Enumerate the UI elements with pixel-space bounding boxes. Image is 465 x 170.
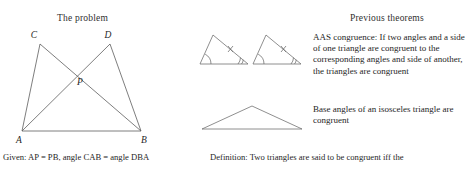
angle-arc-left-b1 — [238, 58, 241, 64]
congruent-triangles-svg — [196, 28, 308, 72]
triangle-left — [200, 35, 248, 64]
vertex-label-b: B — [141, 135, 147, 145]
problem-diagram-svg: C D P A B — [0, 22, 175, 137]
definition-caption: Definition: Two triangles are said to be… — [210, 152, 404, 162]
right-panel-heading: Previous theorems — [350, 13, 424, 23]
isosceles-left-leg — [202, 106, 252, 129]
angle-arc-right-a — [258, 54, 264, 64]
congruent-triangles-figure — [196, 28, 308, 72]
vertex-label-a: A — [15, 135, 22, 145]
vertex-label-c: C — [31, 30, 38, 40]
vertex-label-d: D — [104, 30, 112, 40]
angle-arc-left-a — [205, 54, 211, 64]
isosceles-triangle-figure — [196, 100, 308, 136]
isosceles-right-leg — [252, 106, 302, 129]
given-caption: Given: AP = PB, angle CAB = angle DBA — [3, 152, 149, 162]
angle-arc-left-b2 — [242, 60, 244, 64]
segment-ac — [22, 44, 40, 131]
theorem-aas-text: AAS congruence: If two angles and a side… — [313, 32, 465, 77]
isosceles-triangle-svg — [196, 100, 308, 136]
problem-diagram: C D P A B — [0, 22, 175, 137]
vertex-label-p: P — [76, 77, 83, 87]
theorem-isosceles-text: Base angles of an isosceles triangle are… — [313, 104, 465, 126]
angle-arc-right-b1 — [291, 58, 294, 64]
angle-arc-right-b2 — [295, 60, 297, 64]
triangle-right — [253, 35, 301, 64]
segment-ad — [22, 44, 110, 131]
